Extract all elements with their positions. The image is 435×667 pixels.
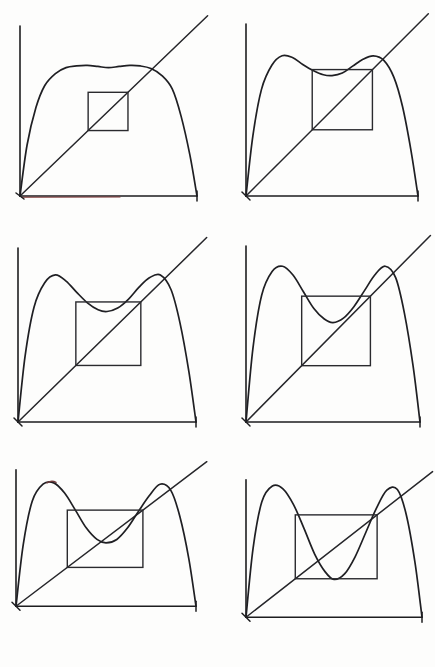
identity-diagonal — [246, 235, 430, 422]
identity-diagonal — [246, 14, 428, 196]
panel-3 — [0, 222, 217, 444]
second-iterate-curve — [246, 55, 418, 196]
figure-grid — [0, 0, 435, 667]
panel-5 — [0, 444, 217, 666]
identity-diagonal — [246, 472, 433, 618]
panel-3-plot — [0, 222, 217, 444]
second-iterate-curve — [246, 266, 420, 422]
panel-6-plot — [218, 444, 435, 666]
panel-6 — [218, 444, 435, 666]
panel-4 — [218, 222, 435, 444]
panel-1 — [0, 0, 217, 222]
identity-diagonal — [18, 238, 207, 422]
second-iterate-curve — [18, 274, 196, 422]
panel-1-plot — [0, 0, 217, 222]
panel-4-plot — [218, 222, 435, 444]
panel-2 — [218, 0, 435, 222]
identity-diagonal — [20, 16, 208, 196]
panel-5-plot — [0, 444, 217, 666]
second-iterate-curve — [16, 482, 196, 606]
panel-2-plot — [218, 0, 435, 222]
